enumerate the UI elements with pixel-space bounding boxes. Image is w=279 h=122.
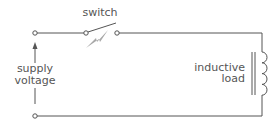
voltage-label: voltage [14,74,55,87]
switch-icon [84,23,119,35]
terminal-bottom [33,114,37,118]
bottom-wire [37,95,262,116]
terminal-top [33,31,37,35]
circuit-diagram: switch supply voltage inductive load [0,0,279,122]
switch-label: switch [82,6,117,19]
inductor-core [252,52,255,95]
spark-icon [86,30,108,48]
top-wire [37,33,262,52]
load-label: load [221,72,245,85]
inductor-coil-icon [262,52,267,95]
